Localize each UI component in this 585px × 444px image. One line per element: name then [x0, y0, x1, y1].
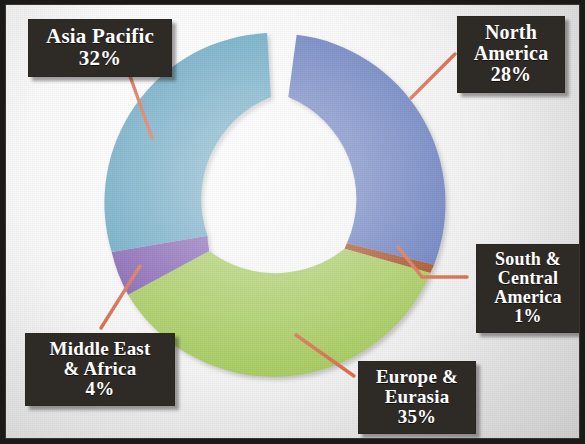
callout-middle-east-africa-name-line1: Middle East: [50, 338, 151, 359]
chart-canvas: Asia Pacific 32% North America 28% South…: [5, 4, 580, 439]
callout-europe-eurasia[interactable]: Europe & Eurasia 35%: [358, 361, 476, 434]
callout-south-central-america-percent: 1%: [486, 307, 570, 326]
callout-asia-pacific-percent: 32%: [38, 47, 162, 69]
callout-north-america-name-line1: North: [485, 21, 537, 43]
chart-image: Asia Pacific 32% North America 28% South…: [0, 0, 585, 444]
donut-ring: [104, 33, 445, 377]
slice-north-america[interactable]: [288, 35, 445, 265]
callout-south-central-america-name-line1: South &: [495, 249, 561, 269]
callout-north-america-name-line2: America: [474, 42, 549, 64]
leader-line-north-america: [411, 54, 455, 98]
callout-asia-pacific[interactable]: Asia Pacific 32%: [28, 19, 172, 77]
callout-middle-east-africa-name-line2: & Africa: [64, 358, 137, 379]
callout-north-america[interactable]: North America 28%: [457, 16, 565, 93]
callout-europe-eurasia-name-line1: Europe &: [376, 366, 458, 387]
callout-europe-eurasia-percent: 35%: [368, 407, 466, 427]
callout-north-america-percent: 28%: [467, 64, 555, 85]
callout-europe-eurasia-name-line2: Eurasia: [385, 386, 450, 407]
callout-south-central-america[interactable]: South & Central America 1%: [476, 244, 580, 333]
callout-middle-east-africa[interactable]: Middle East & Africa 4%: [25, 333, 175, 406]
callout-south-central-america-name-line3: America: [494, 287, 561, 307]
callout-south-central-america-name-line2: Central: [498, 268, 558, 288]
callout-asia-pacific-name: Asia Pacific: [46, 24, 154, 48]
callout-middle-east-africa-percent: 4%: [35, 379, 165, 399]
